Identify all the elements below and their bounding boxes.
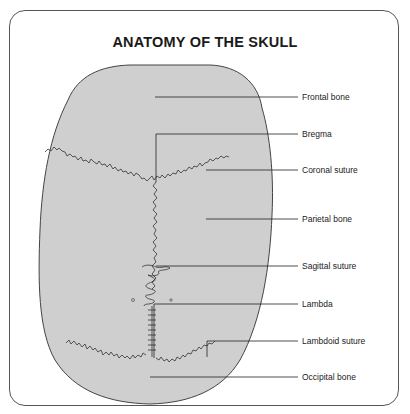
label-lambda: Lambda: [302, 299, 333, 309]
label-occipital-bone: Occipital bone: [302, 372, 356, 382]
skull-diagram: [0, 0, 410, 414]
label-sagittal-suture: Sagittal suture: [302, 261, 356, 271]
skull-outline: [39, 65, 272, 404]
label-frontal-bone: Frontal bone: [302, 92, 350, 102]
label-lambdoid-suture: Lambdoid suture: [302, 336, 365, 346]
label-parietal-bone: Parietal bone: [302, 214, 352, 224]
label-bregma: Bregma: [302, 129, 332, 139]
label-coronal-suture: Coronal suture: [302, 165, 358, 175]
